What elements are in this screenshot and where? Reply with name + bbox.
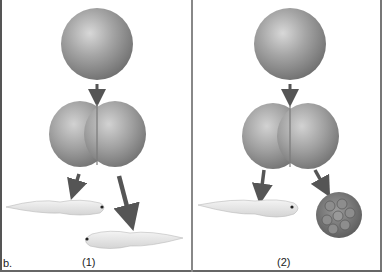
tadpole-2a (198, 200, 298, 217)
panel-1-artwork (6, 8, 183, 249)
tadpole-1a (6, 200, 104, 215)
two-cell-embryo (49, 101, 146, 167)
tadpole-1b (85, 231, 183, 248)
panel-1-caption: (1) (82, 256, 95, 268)
panel-2-artwork (198, 8, 362, 238)
figure-frame: b. (1) (2) (0, 0, 382, 278)
frame-border-left (0, 0, 2, 272)
egg-sphere (61, 8, 133, 80)
part-label: b. (3, 257, 12, 269)
panel-2-caption: (2) (277, 256, 290, 268)
cell-mass (316, 192, 362, 238)
two-cell-embryo (242, 103, 339, 169)
egg-sphere (254, 8, 326, 80)
panel-divider (191, 0, 193, 272)
